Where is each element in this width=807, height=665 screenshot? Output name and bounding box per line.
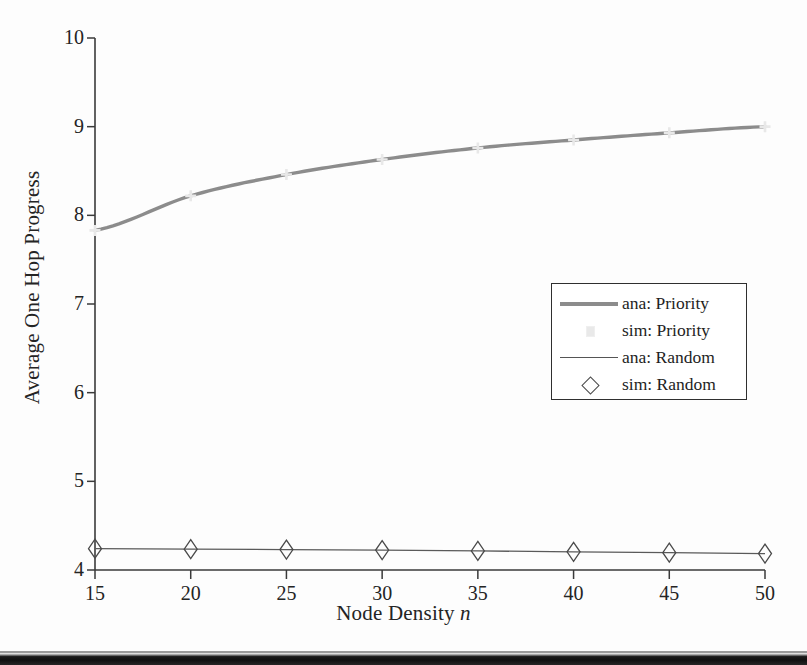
thin-line-key-icon [556,346,622,370]
y-axis-title-wrapper: Average One Hop Progress [20,138,45,438]
x-tick-label: 30 [352,583,412,603]
legend-item-ana-random[interactable]: ana: Random [552,344,746,371]
x-tick-label: 20 [161,583,221,603]
y-tick-label: 4 [39,559,84,579]
legend-label-ana-priority: ana: Priority [622,293,709,314]
data-point-marker [281,169,292,180]
data-point-marker [568,134,579,145]
series-line-ana-priority [95,127,765,231]
data-point-marker [377,154,388,165]
x-tick-label: 45 [639,583,699,603]
data-point-marker [185,190,196,201]
diamond-marker-key-icon [556,373,622,397]
x-tick-label: 50 [735,583,795,603]
x-axis-title: Node Density n [0,601,807,626]
y-tick-label: 10 [39,27,84,47]
legend-item-sim-random[interactable]: sim: Random [552,371,746,398]
x-tick-label: 25 [256,583,316,603]
legend-label-sim-random: sim: Random [622,374,716,395]
thick-line-key-icon [556,292,622,316]
series-markers-sim-random [89,539,772,563]
legend-item-ana-priority[interactable]: ana: Priority [552,290,746,317]
scan-edge-bar [0,653,807,665]
y-axis-ticks [87,38,95,570]
y-tick-label: 7 [39,293,84,313]
y-tick-label: 8 [39,204,84,224]
x-axis-title-text: Node Density [336,601,454,625]
chart-legend: ana: Priority sim: Priority ana: Random … [551,283,747,400]
x-axis-ticks [95,570,765,579]
faint-dot-key-icon [556,319,622,343]
x-axis-title-symbol: n [460,601,471,625]
legend-item-sim-priority[interactable]: sim: Priority [552,317,746,344]
legend-label-sim-priority: sim: Priority [622,320,710,341]
legend-label-ana-random: ana: Random [622,347,715,368]
figure-canvas: 45678910 1520253035404550 Node Density n… [0,0,807,665]
y-tick-label: 9 [39,116,84,136]
data-point-marker [664,127,675,138]
series-markers-sim-priority [90,121,771,236]
y-tick-label: 5 [39,470,84,490]
x-tick-label: 15 [65,583,125,603]
y-axis-title: Average One Hop Progress [20,171,44,405]
data-point-marker [472,142,483,153]
data-point-marker [90,225,101,236]
y-tick-label: 6 [39,382,84,402]
x-tick-label: 40 [544,583,604,603]
x-tick-label: 35 [448,583,508,603]
data-point-marker [760,121,771,132]
